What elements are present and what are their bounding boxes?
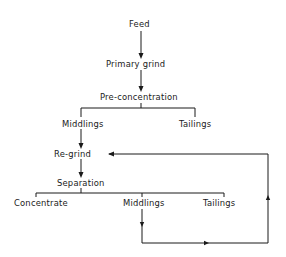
- node-tailings-2: Tailings: [203, 198, 235, 208]
- flowchart: Feed Primary grind Pre-concentration Mid…: [0, 0, 286, 257]
- node-primary-grind: Primary grind: [106, 59, 165, 69]
- arrowhead-icon: [204, 241, 209, 245]
- node-feed: Feed: [129, 19, 150, 29]
- node-pre-concentration: Pre-concentration: [100, 92, 178, 102]
- node-middlings-2: Middlings: [123, 198, 165, 208]
- node-separation: Separation: [57, 178, 105, 188]
- node-regrind: Re-grind: [54, 149, 91, 159]
- arrowhead-icon: [108, 152, 114, 157]
- arrowhead-icon: [266, 195, 270, 200]
- node-concentrate: Concentrate: [14, 198, 68, 208]
- node-middlings-1: Middlings: [62, 119, 104, 129]
- arrowhead-icon: [140, 222, 144, 227]
- node-tailings-1: Tailings: [179, 119, 211, 129]
- connector-lines: [0, 0, 286, 257]
